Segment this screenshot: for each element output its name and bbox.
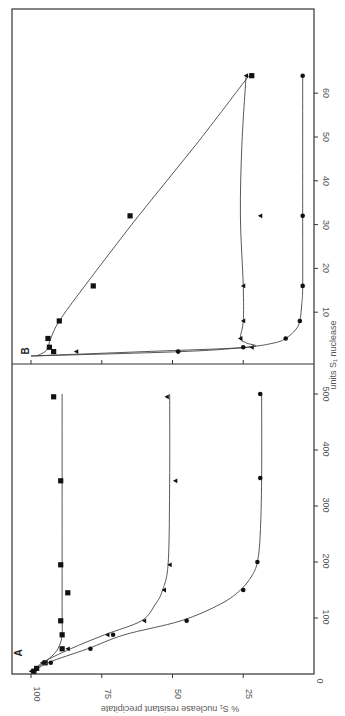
square-marker: [57, 318, 62, 323]
circle-marker: [49, 661, 54, 666]
square-marker: [58, 478, 63, 483]
circle-marker: [255, 560, 260, 565]
square-marker: [60, 646, 65, 651]
percent-tick-labels: 100 75 50 25 0: [32, 678, 325, 701]
units-tick-labels-a: 100 200 300 400 500: [321, 386, 331, 624]
triangle-fit-curve: [31, 394, 170, 674]
circle-marker: [184, 619, 189, 624]
y-tick-25: 25: [244, 689, 254, 699]
y-tick-50: 50: [173, 689, 183, 699]
panel-label-b: B: [20, 347, 31, 354]
panel-a-data: [29, 392, 263, 674]
square-marker: [45, 336, 50, 341]
panel-label-a: A: [13, 649, 24, 656]
triangle-marker: [258, 213, 262, 218]
square-marker: [249, 73, 254, 78]
square-fit-curve: [37, 76, 249, 356]
square-marker: [51, 394, 56, 399]
circle-marker: [241, 345, 246, 350]
a-x-tick-200: 200: [321, 553, 331, 568]
b-x-tick-50: 50: [321, 132, 331, 142]
y-tick-100: 100: [32, 686, 42, 701]
b-x-tick-20: 20: [321, 263, 331, 273]
circle-marker: [88, 647, 93, 652]
circle-marker: [111, 633, 116, 638]
circle-marker: [300, 284, 305, 289]
triangle-marker: [173, 478, 177, 483]
square-marker: [47, 345, 52, 350]
a-x-tick-300: 300: [321, 497, 331, 512]
y-tick-0: 0: [315, 678, 325, 683]
x-axis-title: units S₁ nuclease: [328, 320, 338, 389]
circle-marker: [298, 319, 303, 324]
triangle-marker: [105, 632, 109, 637]
circle-marker: [300, 214, 305, 219]
circle-marker: [176, 349, 181, 354]
square-marker: [60, 632, 65, 637]
circle-fit-curve: [31, 394, 262, 674]
a-x-tick-400: 400: [321, 441, 331, 456]
triangle-marker: [74, 349, 78, 354]
triangle-marker: [164, 394, 168, 399]
square-marker: [58, 618, 63, 623]
circle-marker: [283, 336, 288, 341]
circle-marker: [258, 476, 263, 481]
units-tick-labels-b: 10 20 30 40 50 60: [321, 88, 331, 317]
b-x-tick-60: 60: [321, 88, 331, 98]
panel-b-data: [31, 73, 305, 356]
square-marker: [58, 562, 63, 567]
triangle-fit-curve: [31, 76, 256, 356]
b-x-tick-30: 30: [321, 220, 331, 230]
y-axis-title: % S₁ nuclease resistant precipitate: [101, 704, 240, 714]
circle-marker: [300, 73, 305, 78]
circle-marker: [34, 666, 39, 671]
b-x-tick-40: 40: [321, 176, 331, 186]
a-x-tick-100: 100: [321, 609, 331, 624]
square-fit-curve: [31, 394, 62, 674]
y-tick-75: 75: [103, 689, 113, 699]
plot-frame: [12, 9, 314, 674]
square-marker: [127, 213, 132, 218]
circle-marker: [258, 392, 263, 397]
chart: 100 75 50 25 0 % S₁ nuclease resistant p…: [0, 0, 345, 716]
circle-marker: [241, 588, 246, 593]
square-marker: [91, 283, 96, 288]
b-x-tick-10: 10: [321, 307, 331, 317]
square-marker: [65, 590, 70, 595]
